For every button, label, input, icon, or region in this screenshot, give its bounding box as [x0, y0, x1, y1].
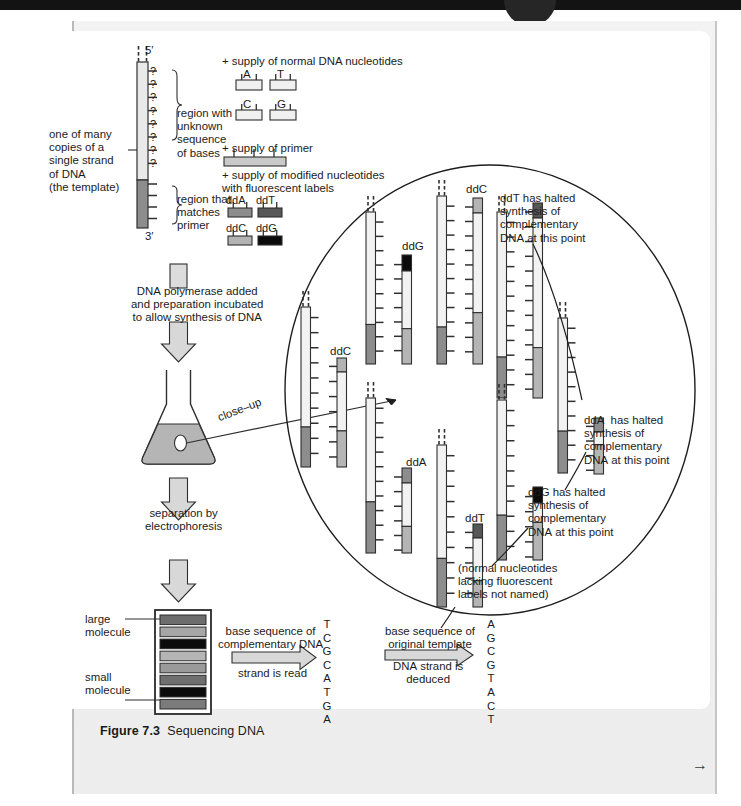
annotation-ddT: ddT has haltedsynthesis ofcomplementaryD…: [500, 192, 585, 245]
closeup-strand-label-ddC-left: ddC: [330, 345, 351, 357]
closeup-pair-ddC-left-synth-primer: [337, 431, 347, 467]
modified-label-ddC: ddC: [226, 222, 246, 234]
gel-band: [160, 639, 206, 649]
modified-nucleotide-ddC: [228, 236, 252, 245]
sequence-base: T: [320, 618, 334, 632]
modified-nucleotide-ddG: [258, 236, 282, 245]
closeup-pair-ddA-mid-synth-new: [402, 483, 412, 526]
nucleotide-C: [236, 110, 262, 120]
closeup-pair-ddC-top-template-primer: [437, 327, 447, 364]
closeup-pair-ddC-top-template-unknown: [437, 196, 447, 327]
polymerase-step-text: DNA polymerase addedand preparation incu…: [131, 285, 263, 325]
gel-band: [160, 615, 206, 625]
template-question-mark: ?: [150, 78, 156, 90]
five-prime-label: 5′: [145, 44, 153, 57]
template-question-mark: ?: [150, 91, 156, 103]
closeup-pair-ddG-top-synth-new: [402, 271, 412, 329]
closeup-pair-ddC-left-dd-cap: [337, 358, 347, 372]
nucleotide-G: [270, 110, 296, 120]
closeup-pair-ddA-mid-dd-cap: [402, 468, 412, 483]
arrow-to-flask: [162, 322, 196, 362]
closeup-pair-ddC-left-template-primer: [301, 427, 311, 467]
closeup-pair-ddA-right-template-primer: [558, 431, 568, 473]
annotation-ddG: ddG has haltedsynthesis ofcomplementaryD…: [528, 486, 613, 539]
annotation-ddA: ddA has haltedsynthesis ofcomplementaryD…: [584, 414, 669, 467]
leader-ddA-annotation: [565, 452, 586, 490]
template-question-mark: ?: [150, 157, 156, 169]
read-original-label: base sequence oforiginal template: [385, 625, 475, 651]
gel-band: [160, 699, 206, 709]
closeup-pair-ddT-bottom-template-primer: [437, 558, 447, 607]
closeup-pair-ddA-mid-template-unknown: [366, 398, 376, 502]
original-sequence-column: AGCGTACT: [484, 618, 498, 727]
template-unknown-region: [137, 62, 148, 180]
template-question-mark: ?: [150, 65, 156, 77]
annotation-normal-nucleotides: (normal nucleotideslacking fluorescentla…: [458, 562, 557, 602]
sequence-base: T: [484, 672, 498, 686]
closeup-strand-label-ddG-top: ddG: [402, 240, 424, 252]
closeup-pair-ddC-left-template-unknown: [301, 307, 311, 427]
gel-band: [160, 627, 206, 637]
sequence-base: G: [320, 645, 334, 659]
closeup-pair-ddG-top-template-primer: [366, 324, 376, 364]
gel-band: [160, 663, 206, 673]
closeup-pair-ddA-mid-template-primer: [366, 502, 376, 553]
closeup-strand-label-ddT-bottom: ddT: [465, 512, 485, 524]
closeup-pair-ddC-top-synth-new: [473, 213, 483, 313]
gel-band: [160, 675, 206, 685]
closeup-pair-ddC-top-dd-cap: [473, 198, 483, 213]
closeup-pair-ddC-left-synth-new: [337, 372, 347, 431]
small-molecule-label: smallmolecule: [85, 671, 131, 697]
closeup-pair-ddG-top-dd-cap: [402, 255, 412, 271]
sequence-base: T: [484, 713, 498, 727]
strand-is-read-label: strand is read: [238, 667, 307, 680]
sequence-base: C: [484, 645, 498, 659]
closeup-pair-ddG-top-synth-primer: [402, 329, 412, 364]
closeup-pair-ddC-top-synth-primer: [473, 313, 483, 364]
closeup-pair-ddT-bottom-dd-cap: [473, 524, 483, 538]
sequence-base: G: [484, 659, 498, 673]
gel-band: [160, 651, 206, 661]
figure-page: ???????? 5′ 3′ one of manycopies of asin…: [0, 0, 741, 806]
modified-nucleotides-heading: + supply of modified nucleotideswith flu…: [222, 169, 384, 195]
modified-nucleotide-ddA: [228, 208, 252, 217]
gel-box: [155, 610, 211, 714]
template-question-mark: ?: [150, 118, 156, 130]
closeup-strand-label-ddC-top: ddC: [466, 183, 487, 195]
template-left-label: one of manycopies of asingle strandof DN…: [49, 128, 119, 194]
caption-title: Sequencing DNA: [167, 724, 264, 738]
sequence-base: G: [320, 700, 334, 714]
modified-label-ddA: ddA: [226, 194, 246, 206]
template-question-mark: ?: [150, 144, 156, 156]
sequence-base: C: [484, 700, 498, 714]
template-question-mark: ?: [150, 131, 156, 143]
electrophoresis-step-text: separation byelectrophoresis: [145, 507, 222, 533]
nucleotide-A: [236, 80, 262, 90]
base-label-G: G: [277, 98, 286, 110]
gel-band: [160, 687, 206, 697]
modified-label-ddT: ddT: [256, 194, 275, 206]
flask-closeup-origin: [175, 435, 187, 451]
closeup-pair-ddT-top-synth-primer: [533, 348, 543, 398]
next-page-arrow-icon[interactable]: →: [692, 757, 710, 773]
caption-label: Figure 7.3: [100, 724, 160, 738]
complementary-sequence-column: TCGCATGA: [320, 618, 334, 727]
sequence-base: C: [320, 659, 334, 673]
primer-bar: [224, 157, 286, 166]
sequence-base: A: [320, 713, 334, 727]
strand-deduced-label: DNA strand isdeduced: [393, 660, 463, 686]
read-complementary-label: base sequence ofcomplementary DNA: [218, 625, 323, 651]
modified-label-ddG: ddG: [256, 222, 277, 234]
large-molecule-label: largemolecule: [85, 613, 131, 639]
sequence-base: A: [320, 672, 334, 686]
figure-caption: Figure 7.3 Sequencing DNA: [100, 724, 265, 738]
base-label-T: T: [277, 68, 284, 80]
closeup-pair-ddG-top-template-unknown: [366, 212, 376, 324]
modified-nucleotide-ddT: [258, 208, 282, 217]
closeup-strand-label-ddA-mid: ddA: [406, 456, 426, 468]
closeup-leader: [187, 400, 397, 443]
sequence-base: G: [484, 632, 498, 646]
sequence-base: T: [320, 686, 334, 700]
primer-region-label: region thatmatchesprimer: [177, 193, 231, 233]
sequence-base: C: [320, 632, 334, 646]
